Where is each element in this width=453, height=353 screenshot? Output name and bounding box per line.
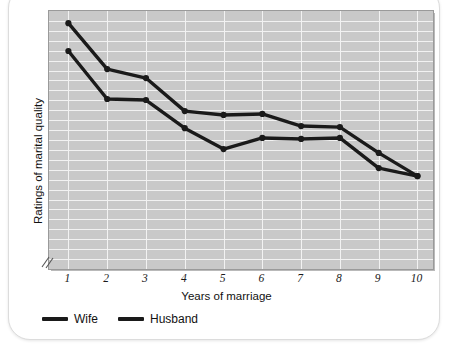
x-tick-10: 10 bbox=[401, 272, 431, 284]
y-axis-label: Ratings of marital quality bbox=[32, 86, 44, 236]
x-tick-4: 4 bbox=[169, 272, 199, 284]
legend-swatch-husband bbox=[118, 317, 144, 321]
data-point bbox=[220, 146, 226, 152]
data-point bbox=[104, 96, 110, 102]
x-tick-2: 2 bbox=[91, 272, 121, 284]
data-point bbox=[298, 123, 304, 129]
legend-label-wife: Wife bbox=[74, 312, 98, 326]
x-axis-label: Years of marriage bbox=[0, 290, 453, 302]
data-point bbox=[337, 124, 343, 130]
x-tick-3: 3 bbox=[130, 272, 160, 284]
legend-item-husband[interactable]: Husband bbox=[118, 312, 198, 326]
x-tick-6: 6 bbox=[246, 272, 276, 284]
x-tick-7: 7 bbox=[285, 272, 315, 284]
data-point bbox=[182, 125, 188, 131]
data-point bbox=[298, 136, 304, 142]
x-tick-9: 9 bbox=[363, 272, 393, 284]
legend-item-wife[interactable]: Wife bbox=[42, 312, 98, 326]
data-point bbox=[65, 20, 71, 26]
data-point bbox=[143, 97, 149, 103]
x-tick-1: 1 bbox=[52, 272, 82, 284]
legend-label-husband: Husband bbox=[150, 312, 198, 326]
series-lines bbox=[49, 11, 433, 269]
data-point bbox=[143, 75, 149, 81]
data-point bbox=[104, 66, 110, 72]
data-point bbox=[337, 135, 343, 141]
data-point bbox=[65, 48, 71, 54]
x-tick-5: 5 bbox=[208, 272, 238, 284]
data-point bbox=[414, 173, 420, 179]
axis-break-icon bbox=[40, 255, 58, 271]
legend-swatch-wife bbox=[42, 317, 68, 321]
data-point bbox=[259, 111, 265, 117]
chart-figure: 12345678910 Years of marriage Ratings of… bbox=[0, 0, 453, 353]
x-tick-8: 8 bbox=[324, 272, 354, 284]
data-point bbox=[376, 150, 382, 156]
chart-legend: Wife Husband bbox=[42, 312, 198, 326]
plot-area bbox=[48, 10, 434, 270]
data-point bbox=[182, 108, 188, 114]
data-point bbox=[259, 135, 265, 141]
data-point bbox=[376, 165, 382, 171]
data-point bbox=[220, 112, 226, 118]
